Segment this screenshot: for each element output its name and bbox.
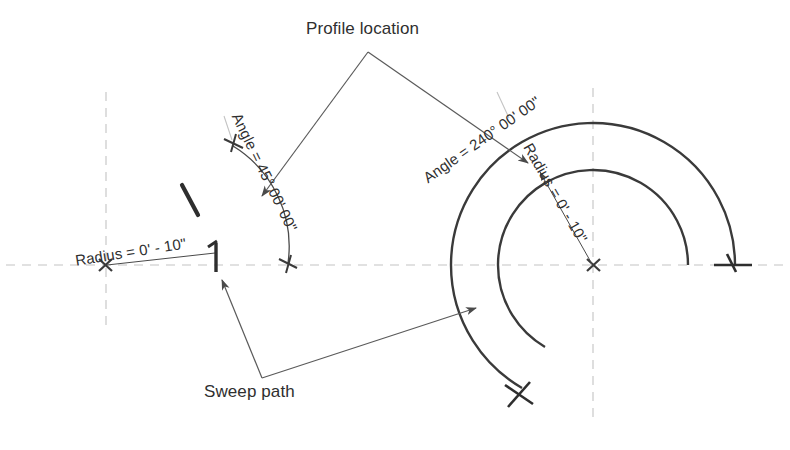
sweep-path-leader — [222, 280, 476, 378]
left-profile-marker — [208, 241, 217, 272]
sweep-path-label: Sweep path — [204, 382, 295, 402]
left-swept-profile — [182, 185, 198, 215]
diagram-vector-layer — [0, 0, 790, 450]
profile-location-label: Profile location — [306, 19, 419, 39]
diagram-canvas: Profile location Sweep path Angle = 45° … — [0, 0, 790, 450]
right-profile-start — [714, 254, 752, 272]
